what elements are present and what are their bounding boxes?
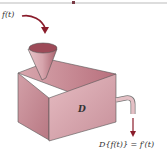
funnel-mouth [29,43,57,53]
input-arrowhead [41,27,49,34]
box-label: D [78,104,86,114]
rule-mark [72,1,75,4]
input-label: f(t) [2,10,14,19]
output-label: D{f(t)} = f′(t) [99,140,154,149]
input-arrow [22,16,45,28]
output-arrowhead [130,131,136,137]
operator-diagram [0,0,167,155]
